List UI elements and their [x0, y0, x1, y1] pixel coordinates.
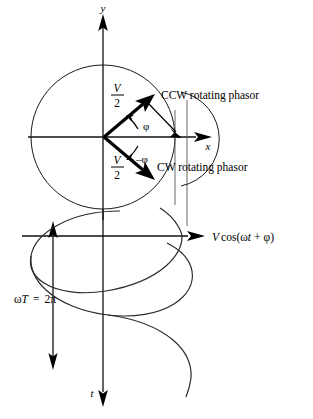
ccw-magnitude-numerator: V	[113, 82, 122, 94]
x-axis-label: x	[205, 140, 211, 152]
t-axis	[98, 209, 108, 407]
period-label: ωT=2π	[14, 293, 56, 305]
x-axis	[28, 132, 212, 142]
ccw-magnitude-denominator: 2	[114, 97, 120, 109]
t-axis-label: t	[90, 387, 94, 399]
phi-label-ccw: φ	[143, 120, 149, 132]
period-T: T	[22, 293, 30, 305]
resultant-construction-arrow	[146, 101, 182, 138]
ccw-phasor-label: CCW rotating phasor	[161, 89, 259, 102]
resultant-arrowhead	[170, 128, 182, 138]
waveform-plus: +	[254, 231, 261, 243]
waveform-close-paren: )	[270, 231, 274, 244]
waveform-axis-label: Vcos(ωt+φ)	[212, 231, 274, 244]
cw-phasor-label: CW rotating phasor	[157, 161, 248, 174]
period-value: 2π	[44, 293, 56, 305]
cw-magnitude-label: V 2	[111, 154, 124, 181]
waveform-axis-arrowhead	[187, 231, 205, 241]
phasor-diagram-svg: y x	[0, 0, 313, 419]
phi-label-cw: –φ	[135, 153, 148, 165]
waveform-time: t	[248, 231, 252, 243]
period-equals: =	[33, 293, 40, 305]
y-axis-label: y	[100, 2, 106, 14]
cosine-waveform-tail	[108, 315, 191, 397]
waveform-amplitude: V	[212, 231, 221, 243]
cosine-waveform-lower	[31, 243, 193, 316]
t-axis-arrowhead	[98, 390, 108, 407]
cw-magnitude-numerator: V	[113, 154, 122, 166]
ccw-magnitude-label: V 2	[111, 82, 124, 109]
vector-sum-guide-upper	[104, 101, 146, 137]
waveform-function: cos	[221, 231, 237, 243]
cw-magnitude-denominator: 2	[114, 169, 120, 181]
phasor-diagram-figure: y x	[0, 0, 313, 419]
y-axis	[98, 14, 108, 220]
